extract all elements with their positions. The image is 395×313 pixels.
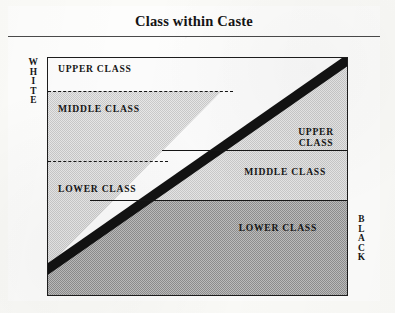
label-white-middle-class: MIDDLE CLASS [58, 103, 140, 114]
label-white-lower-class: LOWER CLASS [58, 183, 136, 194]
label-black-lower-class: LOWER CLASS [239, 222, 317, 233]
label-black-upper-line2: CLASS [299, 137, 334, 148]
diagram-plot-box: UPPER CLASS MIDDLE CLASS LOWER CLASS UPP… [47, 57, 348, 296]
figure-title-bar: Class within Caste [8, 6, 380, 37]
figure-frame: Class within Caste W H I T E B L A C K [8, 6, 380, 301]
figure-page: Class within Caste W H I T E B L A C K [0, 0, 395, 313]
divider-black-middle-lower [90, 200, 347, 201]
axis-label-black: B L A C K [356, 215, 367, 263]
divider-white-middle-lower [48, 161, 168, 162]
label-black-upper-class: UPPER CLASS [292, 126, 340, 149]
figure-title: Class within Caste [135, 13, 253, 30]
divider-white-upper-middle [48, 91, 233, 92]
label-black-upper-line1: UPPER [298, 126, 334, 137]
label-black-middle-class: MIDDLE CLASS [244, 166, 326, 177]
label-white-upper-class: UPPER CLASS [58, 63, 132, 74]
diagram-area: W H I T E B L A C K [8, 37, 380, 300]
axis-label-white: W H I T E [28, 58, 39, 106]
divider-black-upper-middle [162, 150, 347, 151]
